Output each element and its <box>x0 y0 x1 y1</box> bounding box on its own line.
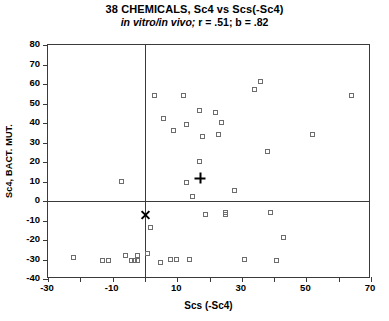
data-point <box>213 110 218 115</box>
y-tick-label: 70 <box>29 58 40 69</box>
data-point <box>197 159 202 164</box>
data-point <box>135 253 140 258</box>
data-point <box>268 210 273 215</box>
data-point <box>119 179 124 184</box>
x-tick-label: -10 <box>105 282 119 293</box>
cross-marker <box>139 209 150 220</box>
x-tick-label: -30 <box>40 282 54 293</box>
y-tick: 40 <box>43 123 48 124</box>
y-tick-label: 20 <box>29 155 40 166</box>
data-point <box>152 93 157 98</box>
data-point <box>310 132 315 137</box>
x-tick-label: 10 <box>171 282 182 293</box>
data-point <box>187 257 192 262</box>
y-tick: 70 <box>43 65 48 66</box>
y-tick-label: -20 <box>26 233 40 244</box>
y-tick: 10 <box>43 182 48 183</box>
data-point <box>148 225 153 230</box>
data-point <box>190 194 195 199</box>
y-tick-label: 40 <box>29 116 40 127</box>
y-axis-label-text: Sc4, BACT. MUT. <box>4 124 14 198</box>
data-point <box>274 258 279 263</box>
data-point <box>123 253 128 258</box>
chart-subtitle-stats: r = .51; b = .82 <box>195 16 268 28</box>
plus-marker <box>194 172 205 183</box>
data-point <box>135 258 140 263</box>
y-tick-label: 30 <box>29 136 40 147</box>
data-point <box>171 128 176 133</box>
data-point <box>158 260 163 265</box>
y-tick-label: -10 <box>26 214 40 225</box>
y-tick: -20 <box>43 240 48 241</box>
y-zero-reference-line <box>48 201 369 202</box>
data-point <box>281 235 286 240</box>
data-point <box>106 258 111 263</box>
y-tick: 50 <box>43 104 48 105</box>
data-point <box>349 93 354 98</box>
data-point <box>216 132 221 137</box>
y-tick-label: -30 <box>26 253 40 264</box>
chart-subtitle-italic: in vitro/in vivo; <box>121 16 196 28</box>
data-point <box>203 212 208 217</box>
x-tick-label: 70 <box>365 282 376 293</box>
y-tick-label: 60 <box>29 77 40 88</box>
data-point <box>184 122 189 127</box>
chart-subtitle: in vitro/in vivo; r = .51; b = .82 <box>0 16 389 29</box>
data-point <box>252 87 257 92</box>
plot-area: 80706050403020100-10-20-30-40 <box>47 44 370 278</box>
data-point <box>181 93 186 98</box>
data-point <box>174 257 179 262</box>
data-point <box>197 108 202 113</box>
y-tick-label: -40 <box>26 272 40 283</box>
x-zero-reference-line <box>145 45 146 277</box>
data-point <box>184 180 189 185</box>
y-tick-label: 10 <box>29 175 40 186</box>
y-axis-label: Sc4, BACT. MUT. <box>2 44 16 278</box>
scatter-plot-figure: 38 CHEMICALS, Sc4 vs Scs(-Sc4) in vitro/… <box>0 0 389 321</box>
y-tick: 20 <box>43 162 48 163</box>
data-point <box>223 212 228 217</box>
data-point <box>242 257 247 262</box>
x-tick-label: 50 <box>300 282 311 293</box>
data-point <box>161 116 166 121</box>
y-tick: 60 <box>43 84 48 85</box>
y-tick: 0 <box>43 201 48 202</box>
y-tick-label: 0 <box>35 194 40 205</box>
y-tick: 80 <box>43 45 48 46</box>
x-tick-label: 30 <box>236 282 247 293</box>
y-tick-label: 80 <box>29 38 40 49</box>
data-point <box>232 188 237 193</box>
data-point <box>200 134 205 139</box>
y-tick: -10 <box>43 221 48 222</box>
x-axis-tick-labels: -30-1010305070 <box>47 278 370 296</box>
page-title: 38 CHEMICALS, Sc4 vs Scs(-Sc4) <box>0 3 389 16</box>
data-point <box>145 251 150 256</box>
data-point <box>100 258 105 263</box>
data-point <box>265 149 270 154</box>
y-tick: 30 <box>43 143 48 144</box>
data-point <box>71 255 76 260</box>
y-tick: -30 <box>43 260 48 261</box>
data-point <box>219 120 224 125</box>
title-block: 38 CHEMICALS, Sc4 vs Scs(-Sc4) in vitro/… <box>0 3 389 29</box>
y-tick-label: 50 <box>29 97 40 108</box>
data-point <box>168 257 173 262</box>
x-axis-label: Scs (-Sc4) <box>47 300 370 311</box>
data-point <box>258 79 263 84</box>
